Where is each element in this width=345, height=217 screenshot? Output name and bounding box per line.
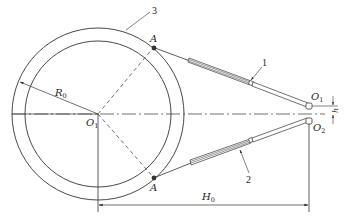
pivot-o2-marker xyxy=(306,118,312,124)
rod2-thin-segment xyxy=(156,163,191,177)
leader-2 xyxy=(240,150,249,173)
label-pivot-o1: O1 xyxy=(311,91,323,104)
rod2-hatch-b xyxy=(191,142,251,163)
radial-dashed-lower xyxy=(98,114,154,178)
leader-1 xyxy=(251,67,262,80)
label-offset-h: h xyxy=(331,108,340,113)
mechanism-diagram: 3 1 2 A A O1 O1 O2 R0 H0 h xyxy=(0,0,345,217)
label-radius-r0: R0 xyxy=(54,87,67,100)
label-point-a-upper: A xyxy=(149,33,157,44)
rod1-hatch-a xyxy=(189,60,251,83)
label-part-2: 2 xyxy=(246,174,251,185)
rod2-cylinder xyxy=(190,139,251,165)
label-part-1: 1 xyxy=(262,57,267,68)
rod1-hatch-b xyxy=(189,61,251,84)
point-a-upper-marker xyxy=(152,46,157,51)
rod-part-1 xyxy=(155,48,308,107)
rod-part-2 xyxy=(156,118,308,177)
leader-3 xyxy=(126,12,150,30)
label-point-a-lower: A xyxy=(149,182,157,193)
rod2-piston xyxy=(252,118,308,142)
label-pivot-o2: O2 xyxy=(313,122,325,135)
label-part-3: 3 xyxy=(152,5,157,16)
rod1-piston xyxy=(252,82,308,107)
rod1-cylinder xyxy=(188,58,251,85)
radial-dashed-upper xyxy=(98,48,153,114)
rod2-hatch-a xyxy=(191,140,251,161)
pivot-o1-marker xyxy=(306,103,312,109)
label-height-h0: H0 xyxy=(201,191,215,204)
point-a-lower-marker xyxy=(152,176,157,181)
label-center-o1: O1 xyxy=(86,117,98,130)
